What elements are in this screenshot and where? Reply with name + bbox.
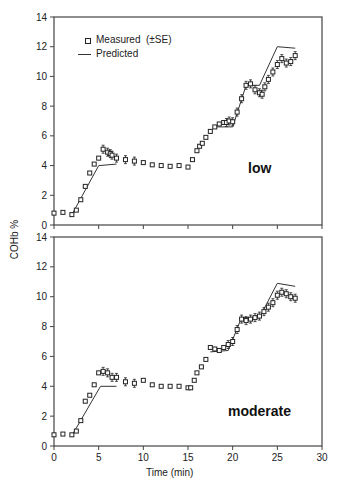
measured-point [92, 162, 96, 166]
measured-point [97, 371, 101, 375]
measured-point [79, 419, 83, 423]
measured-point [123, 158, 127, 162]
y-tick-label: 6 [41, 351, 47, 362]
measured-point [79, 198, 83, 202]
measured-point [231, 340, 235, 344]
y-tick-label: 12 [36, 261, 48, 272]
measured-point [74, 429, 78, 433]
measured-point [213, 125, 217, 129]
measured-point [244, 83, 248, 87]
measured-point [249, 317, 253, 321]
measured-point [190, 158, 194, 162]
measured-point [284, 292, 288, 296]
measured-point [262, 310, 266, 314]
y-tick-label: 10 [36, 291, 48, 302]
measured-point [70, 213, 74, 217]
measured-point [235, 328, 239, 332]
measured-point [253, 316, 257, 320]
measured-point [177, 384, 181, 388]
x-tick-label: 0 [51, 452, 57, 463]
measured-point [115, 156, 119, 160]
measured-point [271, 301, 275, 305]
x-tick-label: 25 [272, 452, 284, 463]
measured-point [199, 365, 203, 369]
measured-point [83, 184, 87, 188]
measured-point [123, 380, 127, 384]
panel-moderate: 02468101214051015202530 [36, 232, 328, 464]
measured-point [92, 383, 96, 387]
measured-point [231, 120, 235, 124]
measured-point [222, 345, 226, 349]
measured-point [110, 153, 114, 157]
measured-point [260, 92, 264, 96]
y-tick-label: 0 [41, 220, 47, 231]
measured-point [266, 305, 270, 309]
predicted-line [72, 386, 117, 435]
measured-point [88, 171, 92, 175]
measured-point [83, 399, 87, 403]
panel-label-low: low [248, 160, 271, 176]
measured-point [293, 54, 297, 58]
measured-point [249, 82, 253, 86]
measured-point [235, 110, 239, 114]
y-tick-label: 8 [41, 321, 47, 332]
y-tick-label: 4 [41, 160, 47, 171]
measured-point [70, 433, 74, 437]
predicted-line [72, 164, 117, 215]
measured-point [195, 371, 199, 375]
measured-point [240, 317, 244, 321]
measured-point [101, 147, 105, 151]
measured-point [115, 375, 119, 379]
measured-point [289, 60, 293, 64]
x-tick-label: 5 [96, 452, 102, 463]
measured-point [204, 357, 208, 361]
x-tick-label: 15 [182, 452, 194, 463]
measured-point [97, 156, 101, 160]
panel-low: 02468101214 [36, 12, 322, 231]
measured-point [280, 57, 284, 61]
measured-point [263, 85, 267, 89]
measured-point [204, 135, 208, 139]
measured-point [177, 164, 181, 168]
plot-frame [54, 17, 322, 225]
measured-point [226, 342, 230, 346]
measured-point [195, 149, 199, 153]
x-tick-label: 30 [316, 452, 328, 463]
measured-point [240, 97, 244, 101]
measured-point [141, 378, 145, 382]
measured-point [52, 211, 56, 215]
measured-point [132, 381, 136, 385]
measured-point [106, 371, 110, 375]
measured-point [271, 70, 275, 74]
measured-point [189, 386, 193, 390]
measured-point [61, 210, 65, 214]
measured-point [101, 369, 105, 373]
y-tick-label: 8 [41, 101, 47, 112]
y-tick-label: 14 [36, 232, 48, 243]
x-axis-label: Time (min) [146, 467, 193, 478]
measured-point [284, 61, 288, 65]
y-tick-label: 4 [41, 381, 47, 392]
measured-point [150, 383, 154, 387]
y-tick-label: 14 [36, 12, 48, 23]
measured-point [208, 345, 212, 349]
y-tick-label: 6 [41, 130, 47, 141]
measured-point [159, 384, 163, 388]
measured-point [217, 122, 221, 126]
y-tick-label: 12 [36, 41, 48, 52]
panel-label-moderate: moderate [228, 403, 291, 419]
y-tick-label: 2 [41, 190, 47, 201]
measured-point [200, 141, 204, 145]
measured-point [257, 314, 261, 318]
measured-point [74, 208, 78, 212]
measured-point [159, 164, 163, 168]
measured-point [88, 393, 92, 397]
y-tick-label: 2 [41, 411, 47, 422]
y-tick-label: 10 [36, 71, 48, 82]
measured-point [168, 164, 172, 168]
measured-point [289, 295, 293, 299]
legend-predicted-label: Predicted [96, 48, 138, 59]
measured-point [52, 433, 56, 437]
measured-point [253, 88, 257, 92]
measured-point [61, 432, 65, 436]
